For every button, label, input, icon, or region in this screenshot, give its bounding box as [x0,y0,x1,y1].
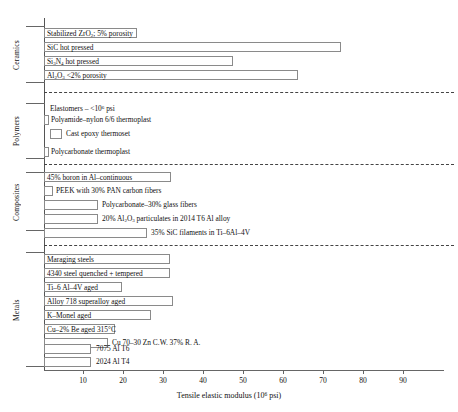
bar-label-7075-al-t6: 7075 Al T6 [96,344,130,354]
bar-cast-epoxy[interactable] [50,129,62,139]
xtick-label-20: 20 [119,376,127,385]
bar-label-cast-epoxy: Cast epoxy thermoset [66,129,130,139]
separator-polymers-composites [44,164,454,165]
bar-4340-steel[interactable]: 4340 steel quenched + tempered [44,268,170,278]
group-tick-polymers-top [26,103,45,104]
bar-label-polycarbonate-glass-fibers: Polycarbonate–30% glass fibers [102,200,197,210]
bar-7075-al-t6[interactable] [44,344,91,354]
group-tick-ceramics-top [26,26,45,27]
bar-ti-6al-4v-aged[interactable]: Ti–6 Al–4V aged [44,282,122,292]
x-axis-title: Tensile elastic modulus (106 psi) [0,391,458,400]
group-tick-ceramics-bottom [26,82,45,83]
bar-label-ti-6al-4v-aged: Ti–6 Al–4V aged [47,283,98,293]
group-label-metals: Metals [12,290,21,330]
bar-label-4340-steel: 4340 steel quenched + tempered [47,269,143,279]
xtick-label-50: 50 [239,376,247,385]
xtick-20 [123,370,124,374]
bar-label-peek-pan-carbon: PEEK with 30% PAN carbon fibers [56,186,161,196]
group-tick-polymers-bottom [26,158,45,159]
xtick-label-80: 80 [359,376,367,385]
group-tick-composites-top [26,172,45,173]
xtick-40 [203,370,204,374]
bar-label-k-monel-aged: K–Monel aged [47,311,91,321]
xtick-label-90: 90 [399,376,407,385]
xtick-label-60: 60 [279,376,287,385]
xtick-label-30: 30 [159,376,167,385]
xtick-60 [283,370,284,374]
bar-label-polyamide-nylon: Polyamide–nylon 6/6 thermoplast [51,115,151,125]
xtick-10 [83,370,84,374]
tensile-modulus-chart: Ceramics Polymers Composites Metals Stab… [0,0,458,412]
x-axis-title-main: Tensile elastic modulus (10 [177,391,265,400]
xtick-50 [243,370,244,374]
group-tick-composites-bottom [26,230,45,231]
group-label-ceramics: Ceramics [12,30,21,80]
group-tick-metals-top [26,252,45,253]
bar-label-stabilized-zro2: Stabilized ZrO2; 5% porosity [47,29,133,41]
xtick-30 [163,370,164,374]
bar-label-boron-al-continuous: 45% boron in Al–continuous [47,173,132,183]
bar-label-maraging-steels: Maraging steels [47,255,94,265]
bar-maraging-steels[interactable]: Maraging steels [44,254,170,264]
xtick-label-10: 10 [79,376,87,385]
bar-label-si3n4-hot-pressed: Si3N4 hot pressed [47,57,99,69]
bar-sic-filaments-ti6al4v[interactable] [44,228,147,238]
bar-boron-al-continuous[interactable]: 45% boron in Al–continuous [44,172,171,182]
x-axis-line [44,370,444,371]
bar-stabilized-zro2[interactable]: Stabilized ZrO2; 5% porosity [44,28,137,38]
xtick-label-40: 40 [199,376,207,385]
bar-alloy-718-superalloy[interactable]: Alloy 718 superalloy aged [44,296,173,306]
xtick-70 [323,370,324,374]
bar-label-elastomers: Elastomers – <106 psi [50,103,115,114]
bar-label-polycarbonate-thermoplast: Polycarbonate thermoplast [51,147,130,157]
separator-ceramics-polymers [44,92,454,93]
bar-cu-2-be-aged[interactable]: Cu–2% Be aged 315°C [44,324,115,334]
bar-si3n4-hot-pressed[interactable]: Si3N4 hot pressed [44,56,233,66]
bar-peek-pan-carbon[interactable] [44,186,53,196]
bar-k-monel-aged[interactable]: K–Monel aged [44,310,151,320]
xtick-label-70: 70 [319,376,327,385]
bar-sic-hot-pressed[interactable]: SiC hot pressed [44,42,341,52]
bar-label-2024-al-t4: 2024 Al T4 [96,357,130,367]
separator-composites-metals [44,245,454,246]
bar-polycarbonate-thermoplast[interactable] [44,147,49,157]
group-label-composites: Composites [12,174,21,230]
bar-label-sic-hot-pressed: SiC hot pressed [47,43,93,53]
group-label-polymers: Polymers [12,106,21,156]
bar-al2o3-porosity[interactable]: Al2O3 <2% porosity [44,70,298,80]
bar-label-cu-2-be-aged: Cu–2% Be aged 315°C [47,325,116,335]
bar-label-sic-filaments-ti6al4v: 35% SiC filaments in Ti–6Al–4V [151,228,250,238]
x-axis-title-tail: psi) [267,391,281,400]
bar-al2o3-particulates-2014t6[interactable] [44,214,98,224]
bar-label-al2o3-porosity: Al2O3 <2% porosity [47,71,107,83]
bar-polyamide-nylon[interactable] [44,115,49,125]
xtick-90 [403,370,404,374]
bar-2024-al-t4[interactable] [44,357,91,367]
xtick-80 [363,370,364,374]
group-tick-metals-bottom [26,366,45,367]
bar-label-alloy-718-superalloy: Alloy 718 superalloy aged [47,297,125,307]
bar-polycarbonate-glass-fibers[interactable] [44,200,98,210]
bar-label-al2o3-particulates-2014t6: 20% Al2O3 particulates in 2014 T6 Al all… [102,214,230,226]
